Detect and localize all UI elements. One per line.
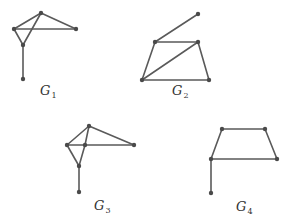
- graph-edge: [142, 42, 155, 80]
- graph-vertex: [209, 157, 213, 161]
- graph-vertex: [275, 157, 279, 161]
- graph-edge: [41, 13, 76, 29]
- graph-edge: [67, 145, 79, 166]
- graph-vertex: [39, 11, 43, 15]
- graph-g1: G1: [12, 11, 78, 100]
- graph-vertex: [65, 143, 69, 147]
- graph-edge: [14, 29, 23, 45]
- graph-g2: G2: [140, 12, 211, 100]
- graph-vertex: [220, 127, 224, 131]
- graph-vertex: [153, 40, 157, 44]
- graph-vertex: [12, 27, 16, 31]
- graph-vertex: [140, 78, 144, 82]
- graph-vertex: [77, 164, 81, 168]
- graph-vertex: [77, 190, 81, 194]
- graph-vertex: [74, 27, 78, 31]
- graph-vertex: [83, 143, 87, 147]
- graph-edge: [79, 145, 85, 166]
- graph-vertex: [21, 77, 25, 81]
- graph-edge: [155, 14, 198, 42]
- graph-edge: [265, 129, 277, 159]
- graph-label: G1: [40, 83, 56, 100]
- graph-vertex: [21, 43, 25, 47]
- graph-label: G4: [236, 199, 252, 216]
- graph-vertex: [207, 78, 211, 82]
- graph-edge: [142, 42, 198, 80]
- graph-edge: [211, 129, 222, 159]
- graph-vertex: [209, 191, 213, 195]
- graph-label: G3: [94, 198, 110, 215]
- graph-vertex: [87, 124, 91, 128]
- graph-vertex: [196, 40, 200, 44]
- graphs-figure: G1 G2 G3 G4: [0, 0, 282, 221]
- graph-vertex: [263, 127, 267, 131]
- graph-vertex: [196, 12, 200, 16]
- graph-label: G2: [172, 83, 188, 100]
- graph-g3: G3: [65, 124, 136, 215]
- graph-vertex: [132, 143, 136, 147]
- graph-edge: [89, 126, 134, 145]
- graph-edge: [198, 42, 209, 80]
- graph-g4: G4: [209, 127, 279, 216]
